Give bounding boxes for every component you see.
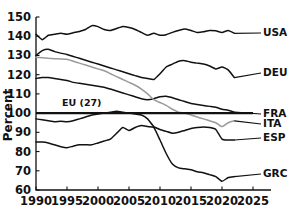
series-line-usa: [36, 26, 234, 40]
x-tick-label: 2020: [206, 194, 238, 208]
series-line-esp: [36, 111, 234, 140]
series-leader-grc: [234, 174, 261, 177]
series-line-grc: [36, 126, 234, 182]
x-axis-tick-labels: 19901995200020052010201520202025: [20, 194, 269, 208]
x-tick-label: 2025: [237, 194, 269, 208]
line-chart-plot: 60708090100110120130140150 1990199520002…: [0, 0, 295, 216]
series-leader-ita: [234, 121, 261, 124]
series-leader-esp: [234, 138, 261, 140]
y-tick-label: 150: [7, 10, 31, 24]
annotation-group: EU (27): [62, 97, 101, 108]
x-tick-label: 2015: [175, 194, 207, 208]
x-tick-label: 2010: [144, 194, 176, 208]
y-tick-label: 120: [7, 68, 31, 82]
y-tick-label: 140: [7, 29, 31, 43]
chart-container: 60708090100110120130140150 1990199520002…: [0, 0, 295, 216]
y-tick-label: 90: [15, 125, 31, 139]
x-tick-label: 2005: [113, 194, 145, 208]
series-label-group: USADEUFRAITAESPGRC: [234, 26, 288, 179]
y-tick-label: 80: [15, 145, 31, 159]
y-tick-label: 70: [15, 164, 31, 178]
annotation-eu27: EU (27): [62, 97, 101, 108]
x-tick-label: 1990: [20, 194, 52, 208]
y-axis-title: Percent: [1, 89, 15, 142]
series-line-ita: [36, 57, 234, 126]
series-leader-deu: [234, 73, 261, 78]
series-label-grc: GRC: [263, 167, 288, 179]
series-label-ita: ITA: [263, 117, 282, 129]
series-label-esp: ESP: [263, 131, 286, 143]
series-line-deu: [36, 49, 234, 79]
y-tick-label: 130: [7, 48, 31, 62]
series-label-usa: USA: [263, 26, 288, 38]
x-tick-label: 2000: [82, 194, 114, 208]
x-tick-label: 1995: [51, 194, 83, 208]
series-label-deu: DEU: [263, 66, 287, 78]
